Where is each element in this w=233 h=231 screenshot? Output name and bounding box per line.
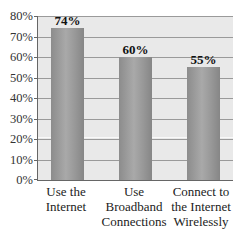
y-tick-label: 30%: [0, 113, 33, 125]
bar-chart: 0%10%20%30%40%50%60%70%80% 74%60%55% Use…: [0, 0, 233, 231]
x-category-label-line: Connections: [98, 214, 170, 229]
y-tick-mark: [34, 16, 38, 17]
value-label: 55%: [179, 52, 229, 68]
plot-area: 74%60%55%: [37, 16, 233, 181]
y-tick-mark: [34, 98, 38, 99]
y-tick-mark: [34, 179, 38, 180]
x-category-label-line: Wirelessly: [165, 214, 233, 229]
x-category-label: Use theInternet: [30, 184, 102, 214]
x-category-label: Use BroadbandConnectionsat Home: [98, 184, 170, 231]
x-category-label-line: Internet: [30, 199, 102, 214]
y-tick-mark: [34, 139, 38, 140]
y-tick-label: 10%: [0, 154, 33, 166]
x-category-label-line: Connect to: [165, 184, 233, 199]
bar: [187, 67, 220, 180]
value-label: 74%: [43, 13, 93, 29]
x-category-label: Connect tothe InternetWirelessly: [165, 184, 233, 229]
y-tick-label: 20%: [0, 133, 33, 145]
y-tick-mark: [34, 37, 38, 38]
y-tick-label: 60%: [0, 51, 33, 63]
x-category-label-line: the Internet: [165, 199, 233, 214]
x-category-label-line: at Home: [98, 229, 170, 231]
x-category-label-line: Use the: [30, 184, 102, 199]
y-tick-label: 70%: [0, 31, 33, 43]
bar: [119, 57, 152, 180]
y-tick-mark: [34, 119, 38, 120]
value-label: 60%: [111, 42, 161, 58]
y-tick-label: 80%: [0, 10, 33, 22]
y-tick-label: 50%: [0, 72, 33, 84]
y-tick-label: 40%: [0, 92, 33, 104]
bar: [51, 28, 84, 180]
y-tick-label: 0%: [0, 174, 33, 186]
y-tick-mark: [34, 57, 38, 58]
x-category-label-line: Use Broadband: [98, 184, 170, 214]
y-tick-mark: [34, 160, 38, 161]
y-tick-mark: [34, 78, 38, 79]
